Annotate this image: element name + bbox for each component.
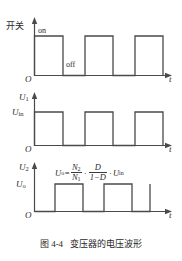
level-label-uo-sub: o [23, 182, 26, 189]
y-axis-label-u1: U1 [19, 93, 29, 103]
figure-container: 开关 on off O t U1 Uin O t [0, 0, 182, 261]
formula-turns-ratio: N2 N1 [71, 163, 82, 183]
y-axis-arrow [32, 162, 37, 169]
output-voltage-formula: Uo= N2 N1 · D 1−D · Uin [55, 163, 124, 183]
figure-caption-title: 变压器的电压波形 [70, 239, 142, 249]
formula-equals: = [64, 169, 70, 178]
formula-dot-1: · [84, 169, 86, 178]
formula-duty-den: 1−D [89, 172, 107, 182]
y-axis-label-u1-sub: 1 [26, 95, 29, 102]
formula-duty-ratio: D 1−D [89, 163, 107, 182]
y-axis-label-u2-sub: 2 [26, 165, 29, 172]
origin-label-switch: O [25, 75, 32, 84]
chart-secondary-voltage-waveform: U2 Uo O t Uo= N2 N1 · D 1−D · Uin [0, 156, 182, 226]
x-axis-label-switch: t [169, 75, 172, 84]
switch-waveform-trace [35, 36, 164, 76]
formula-dot-2: · [109, 169, 111, 178]
formula-turns-num-sub: 2 [78, 166, 81, 172]
figure-caption-number: 图 4-4 [40, 239, 63, 249]
secondary-voltage-trace [35, 184, 151, 212]
level-label-uin-sub: in [19, 110, 24, 117]
formula-turns-num: N2 [71, 163, 82, 172]
origin-label-u2: O [25, 211, 32, 220]
formula-duty-num: D [94, 163, 102, 172]
level-label-uo: Uo [16, 180, 26, 190]
y-axis-label-u2: U2 [19, 163, 29, 173]
y-axis-arrow [32, 17, 37, 24]
y-axis-arrow [32, 92, 37, 99]
primary-voltage-trace [35, 112, 164, 146]
annotation-on: on [38, 27, 46, 35]
x-axis-label-u2: t [169, 211, 172, 220]
origin-label-u1: O [25, 145, 32, 154]
y-axis-label-switch: 开关 [6, 22, 24, 31]
chart-primary-voltage-waveform: U1 Uin O t [0, 84, 182, 156]
switch-waveform-svg [0, 0, 182, 84]
level-label-uin: Uin [12, 108, 24, 118]
formula-turns-den: N1 [71, 172, 82, 182]
formula-turns-den-sub: 1 [78, 176, 81, 182]
annotation-off: off [66, 61, 75, 69]
chart-switch-waveform: 开关 on off O t [0, 0, 182, 84]
x-axis-label-u1: t [169, 145, 172, 154]
figure-caption: 图 4-4变压器的电压波形 [0, 237, 182, 250]
formula-rhs-sub: in [119, 170, 124, 176]
